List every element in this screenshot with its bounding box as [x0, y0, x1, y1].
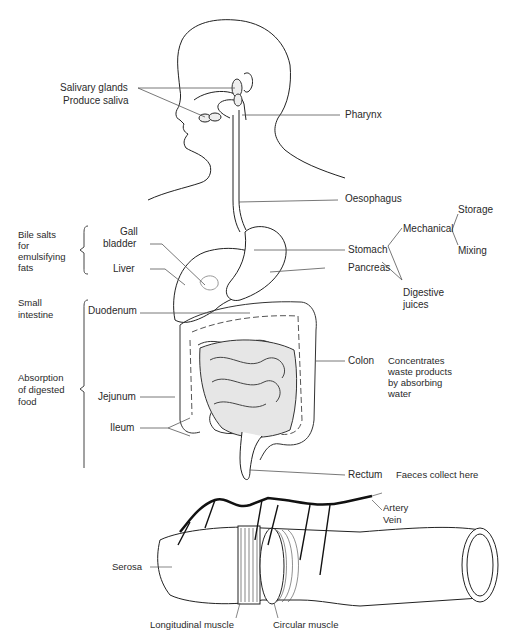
- label-duodenum: Duodenum: [88, 305, 137, 317]
- label-gall-bladder-2: bladder: [103, 238, 136, 250]
- label-absorption-3: food: [18, 396, 37, 408]
- label-pharynx: Pharynx: [345, 109, 382, 121]
- bracket-small-intestine: [80, 300, 88, 468]
- label-stomach: Stomach: [348, 244, 387, 256]
- label-small-intestine-2: intestine: [18, 309, 53, 321]
- face-profile: [148, 90, 211, 200]
- label-colon: Colon: [348, 355, 374, 367]
- label-pancreas: Pancreas: [348, 262, 390, 274]
- label-vein: Vein: [383, 514, 402, 526]
- label-small-intestine-1: Small: [18, 297, 42, 309]
- bracket-bile: [80, 226, 88, 274]
- gut-cross-section: [150, 493, 498, 618]
- label-absorption-1: Absorption: [18, 372, 63, 384]
- head-outline: [178, 20, 345, 178]
- label-digestive-juices-2: juices: [403, 299, 429, 311]
- label-serosa: Serosa: [112, 561, 142, 573]
- rectum-note: Faeces collect here: [396, 469, 478, 481]
- label-mixing: Mixing: [458, 245, 487, 257]
- colon-note-4: water: [388, 388, 411, 400]
- label-absorption-2: of digested: [18, 384, 64, 396]
- label-gall-bladder-1: Gall: [120, 226, 138, 238]
- label-ileum: Ileum: [110, 422, 134, 434]
- label-rectum: Rectum: [348, 469, 382, 481]
- ear: [244, 73, 253, 92]
- label-longitudinal-muscle: Longitudinal muscle: [150, 619, 234, 631]
- rectum: [240, 432, 262, 480]
- label-digestive-juices-1: Digestive: [403, 287, 444, 299]
- label-salivary-glands: Salivary glands: [60, 82, 128, 94]
- label-mechanical: Mechanical: [403, 223, 454, 235]
- label-liver: Liver: [113, 263, 135, 275]
- label-bile-salts-4: fats: [18, 262, 33, 274]
- label-storage: Storage: [458, 204, 493, 216]
- label-oesophagus: Oesophagus: [345, 193, 402, 205]
- label-produce-saliva: Produce saliva: [63, 95, 129, 107]
- label-jejunum: Jejunum: [98, 391, 136, 403]
- label-artery: Artery: [383, 502, 408, 514]
- label-circular-muscle: Circular muscle: [273, 619, 338, 631]
